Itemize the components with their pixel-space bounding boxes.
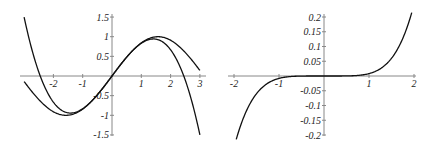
y-tick-label: 0.2: [309, 12, 322, 23]
y-tick-label: 1.5: [97, 12, 110, 23]
x-tick-label: 3: [196, 78, 202, 89]
x-tick-label: -1: [79, 78, 87, 89]
x-tick-label: -2: [230, 78, 238, 89]
y-tick-label: 0.05: [304, 56, 322, 67]
x-tick-label: -2: [49, 78, 57, 89]
y-tick-label: 0.1: [309, 41, 322, 52]
y-tick-label: -0.05: [300, 85, 321, 96]
y-tick-label: -1: [101, 110, 109, 121]
left-chart: -2-11231.510.5-0.5-1-1.5: [20, 12, 206, 141]
y-tick-label: -0.2: [305, 130, 321, 141]
y-tick-label: 1: [104, 31, 109, 42]
x-tick-label: 1: [139, 78, 144, 89]
x-tick-label: 1: [367, 78, 372, 89]
charts-canvas: -2-11231.510.5-0.5-1-1.5 -2-1120.20.150.…: [0, 0, 436, 149]
x-tick-label: 2: [168, 78, 173, 89]
y-tick-label: -0.1: [305, 100, 321, 111]
y-tick-label: 0.15: [304, 26, 322, 37]
y-tick-label: -0.5: [93, 90, 109, 101]
right-chart: -2-1120.20.150.10.05-0.05-0.1-0.15-0.2: [228, 12, 417, 141]
y-tick-label: 0.5: [97, 51, 110, 62]
y-tick-label: -0.15: [300, 115, 321, 126]
x-tick-label: 2: [412, 78, 417, 89]
y-tick-label: -1.5: [93, 129, 109, 140]
